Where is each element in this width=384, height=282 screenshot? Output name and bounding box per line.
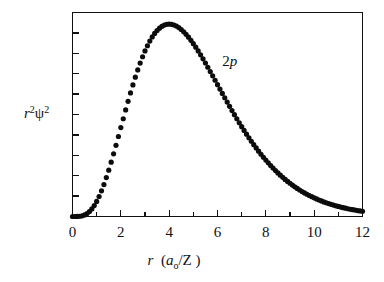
- data-point: [217, 86, 222, 91]
- series-annotation-2p: 2p: [222, 53, 238, 69]
- x-axis-ticks: [73, 210, 363, 217]
- x-axis-tick-labels: 024681012: [69, 224, 370, 240]
- y-axis-label: r2ψ2: [24, 104, 49, 121]
- x-axis-label: r (ao/Z ): [148, 252, 201, 271]
- data-point: [215, 82, 220, 87]
- data-point: [360, 209, 365, 214]
- data-point: [135, 67, 140, 72]
- x-axis-tick-label: 10: [307, 224, 322, 240]
- data-point: [118, 125, 123, 130]
- annotation-orbital: p: [229, 53, 238, 69]
- svg-text:2p: 2p: [222, 53, 238, 69]
- data-point: [220, 91, 225, 96]
- x-axis-tick-label: 6: [214, 224, 222, 240]
- x-axis-label-unit-slash: /Z: [178, 252, 191, 268]
- annotation-number: 2: [222, 53, 230, 69]
- data-point: [145, 43, 150, 48]
- x-axis-label-paren-close: ): [192, 252, 201, 269]
- data-point: [99, 188, 104, 193]
- data-point: [125, 99, 130, 104]
- data-point: [111, 151, 116, 156]
- data-point: [130, 82, 135, 87]
- svg-text:r (ao/Z ): r (ao/Z ): [148, 252, 201, 271]
- radial-probability-chart: 024681012 2p r2ψ2 r (ao/Z ): [0, 0, 384, 282]
- data-point: [94, 199, 99, 204]
- svg-text:r2ψ2: r2ψ2: [24, 104, 49, 121]
- chart-figure: 024681012 2p r2ψ2 r (ao/Z ): [0, 0, 384, 282]
- data-point: [106, 168, 111, 173]
- x-axis-tick-label: 4: [165, 224, 173, 240]
- data-point: [109, 160, 114, 165]
- data-point: [138, 60, 143, 65]
- data-point: [142, 48, 147, 53]
- data-point: [101, 182, 106, 187]
- data-point: [116, 134, 121, 139]
- data-point: [140, 54, 145, 59]
- data-series-2p: [70, 21, 365, 219]
- data-point: [96, 194, 101, 199]
- x-axis-tick-label: 8: [262, 224, 270, 240]
- y-axis-label-sup-2: 2: [44, 104, 49, 115]
- data-point: [133, 75, 138, 80]
- x-axis-tick-label: 0: [69, 224, 77, 240]
- data-point: [113, 143, 118, 148]
- data-point: [121, 116, 126, 121]
- data-point: [123, 107, 128, 112]
- data-point: [104, 175, 109, 180]
- x-axis-label-unit-a: a: [166, 252, 174, 268]
- data-point: [210, 73, 215, 78]
- x-axis-tick-label: 2: [117, 224, 125, 240]
- plot-frame: [73, 13, 363, 217]
- x-axis-tick-label: 12: [355, 224, 370, 240]
- x-axis-label-gap: [153, 252, 161, 268]
- data-point: [128, 90, 133, 95]
- data-point: [212, 78, 217, 83]
- y-axis-ticks: [73, 13, 79, 217]
